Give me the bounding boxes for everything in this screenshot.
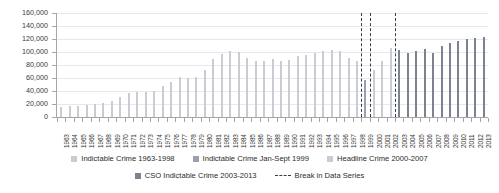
legend-item[interactable]: Headline Crime 2000-2007 [327,154,428,163]
y-axis-tick-label: 20,000 [26,100,48,107]
bar [457,41,459,117]
bar [69,106,71,117]
y-axis-tick-label: 100,000 [22,48,48,55]
bar [77,106,79,117]
x-axis-tick-label: 1986 [258,134,264,148]
x-axis-tick-label: 1990 [292,134,298,148]
bar [398,50,400,117]
x-axis-tick-label: 1974 [157,134,163,148]
chart-legend: Indictable Crime 1963-1998Indictable Cri… [0,150,499,184]
bar [170,82,172,117]
x-axis-tick-label: 1971 [131,134,137,148]
bar [314,53,316,117]
bar [297,56,299,117]
bar [255,61,257,117]
bar [441,46,443,118]
legend-swatch-icon [135,173,141,179]
bar [162,86,164,117]
x-axis-tick-label: 1963 [64,134,70,148]
bar [212,59,214,117]
legend-swatch-icon [327,156,333,162]
x-axis-tick-label: 1965 [81,134,87,148]
bar [128,93,130,117]
bar [153,91,155,117]
legend-item-label: Break in Data Series [295,171,365,180]
bar [272,59,274,117]
bar [145,92,147,117]
x-axis-tick-label: 1981 [216,134,222,148]
bar [339,51,341,117]
legend-item-label: Headline Crime 2000-2007 [337,154,428,163]
x-axis-labels: 1963196419651966196719681969197019711972… [57,122,488,148]
bar [415,51,417,117]
x-axis-tick-label: 1979 [199,134,205,148]
bar [373,70,375,117]
bar [364,80,366,117]
y-axis-tick [52,39,57,40]
bar [102,103,104,117]
bar [263,61,265,117]
x-axis-tick-label: 2005 [419,134,425,148]
x-axis-tick-label: 1995 [334,134,340,148]
bar [474,38,476,117]
break-in-data-series-line [395,13,396,117]
y-axis-tick-label: 160,000 [22,9,48,16]
bar [356,61,358,117]
y-axis-tick-label: 80,000 [26,61,48,68]
x-axis-tick-label: 1970 [123,134,129,148]
bar [179,77,181,117]
bar [280,61,282,117]
y-axis-tick-label: 0 [44,113,48,120]
x-axis-tick-label: 1985 [250,134,256,148]
bar [449,43,451,117]
bar [221,54,223,117]
y-axis-tick [52,52,57,53]
bar [229,51,231,117]
x-axis-tick-label: 1994 [326,134,332,148]
y-axis-tick [52,26,57,27]
x-axis-tick-label: 2007 [436,134,442,148]
legend-item[interactable]: CSO Indictable Crime 2003-2013 [135,171,257,180]
bar [111,101,113,117]
y-axis-tick-label: 40,000 [26,87,48,94]
bar [136,92,138,117]
legend-item[interactable]: Break in Data Series [275,171,365,180]
x-axis-tick-label: 1983 [233,134,239,148]
x-axis-tick-label: 1966 [89,134,95,148]
bar [381,61,383,117]
x-axis-tick-label: 2000 [377,134,383,148]
x-axis-tick-label: 1988 [275,134,281,148]
y-axis-tick-label: 140,000 [22,22,48,29]
x-axis-tick-label: 1991 [300,134,306,148]
break-in-data-series-line [370,13,371,117]
x-axis-tick-label: 2002 [393,134,399,148]
x-axis-tick-label: 1998 [360,134,366,148]
y-axis-tick [52,65,57,66]
legend-item[interactable]: Indictable Crime Jan-Sept 1999 [193,154,309,163]
break-in-data-series-line [361,13,362,117]
bar [204,70,206,117]
legend-row-primary: Indictable Crime 1963-1998Indictable Cri… [0,150,499,167]
bar [407,53,409,117]
legend-item-label: Indictable Crime 1963-1998 [81,154,174,163]
legend-item[interactable]: Indictable Crime 1963-1998 [71,154,174,163]
y-axis-tick [52,91,57,92]
x-axis-tick-label: 1967 [98,134,104,148]
x-axis-tick-label: 1992 [309,134,315,148]
x-axis-tick-label: 1984 [241,134,247,148]
bar [305,55,307,117]
legend-item-label: CSO Indictable Crime 2003-2013 [145,171,257,180]
y-axis-tick-label: 120,000 [22,35,48,42]
y-axis-tick [52,104,57,105]
bar [331,50,333,117]
x-axis-tick-label: 1978 [191,134,197,148]
bar [288,60,290,117]
crime-statistics-bar-chart: 020,00040,00060,00080,000100,000120,0001… [0,0,499,193]
bar [94,104,96,117]
x-axis-tick-label: 1976 [174,134,180,148]
x-axis-tick-label: 1969 [115,134,121,148]
x-axis-tick-label: 1968 [106,134,112,148]
y-axis-tick [52,13,57,14]
x-axis-tick-label: 2009 [453,134,459,148]
bar [246,58,248,117]
